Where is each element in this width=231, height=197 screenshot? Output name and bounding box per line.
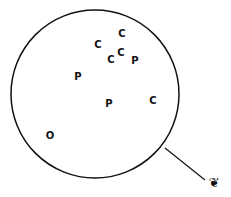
point-label: C bbox=[94, 40, 101, 50]
point-label: C bbox=[117, 48, 124, 58]
point-label: P bbox=[74, 72, 81, 82]
point-label: P bbox=[105, 99, 112, 109]
point-label: C bbox=[118, 29, 125, 39]
point-label: P bbox=[131, 56, 138, 66]
observer-icon: ❦ bbox=[209, 176, 220, 189]
boundary-circle bbox=[11, 10, 179, 178]
point-label: C bbox=[149, 96, 156, 106]
point-label: C bbox=[107, 55, 114, 65]
pointer-line bbox=[165, 148, 205, 180]
point-label: O bbox=[46, 131, 55, 141]
diagram-canvas bbox=[0, 0, 231, 197]
